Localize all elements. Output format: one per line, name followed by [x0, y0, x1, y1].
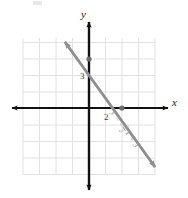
x-axis-label: x [172, 97, 177, 108]
y-intercept-point [86, 56, 91, 61]
x-intercept-point [119, 105, 124, 110]
y-axis-label: y [81, 9, 86, 20]
graph-figure: y x 3 2 y = -32x + 3 [0, 0, 188, 198]
coordinate-plane [0, 0, 188, 198]
y-intercept-label: 3 [80, 72, 85, 81]
